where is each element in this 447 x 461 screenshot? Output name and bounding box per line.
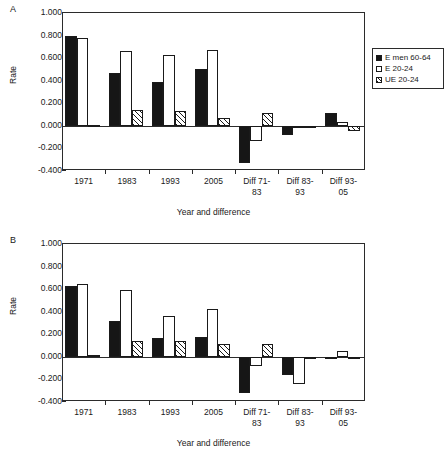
bar <box>250 357 262 366</box>
x-axis-title-b: Year and difference <box>62 438 365 448</box>
bar <box>65 286 77 357</box>
zero-baseline <box>63 126 364 127</box>
y-tick-label: 0.800 <box>18 261 62 271</box>
bar <box>293 357 305 384</box>
x-tick-mark <box>235 401 236 405</box>
y-tick-label: -0.200 <box>18 142 62 152</box>
plot-frame-a <box>62 12 365 170</box>
x-tick-mark <box>149 401 150 405</box>
x-tick-label: 1993 <box>147 176 193 187</box>
x-tick-mark <box>278 170 279 174</box>
y-tick-label: -0.400 <box>18 396 62 406</box>
bar <box>163 55 175 126</box>
bar <box>77 284 89 357</box>
x-axis-labels-a: 1971198319932005Diff 71- 83Diff 83- 93Di… <box>62 176 365 206</box>
bar <box>282 357 294 375</box>
x-tick-label: Diff 71- 83 <box>234 176 280 197</box>
bar <box>218 344 230 357</box>
bar <box>88 125 100 127</box>
bar <box>325 113 337 126</box>
y-tick-label: 0.200 <box>18 328 62 338</box>
bar <box>175 111 187 126</box>
x-axis-labels-b: 1971198319932005Diff 71- 83Diff 83- 93Di… <box>62 407 365 437</box>
x-tick-mark <box>322 170 323 174</box>
chart-panel-b: B Rate 1.0000.8000.6000.4000.2000.000-0.… <box>0 231 447 461</box>
y-tick-label: 1.000 <box>18 7 62 17</box>
plot-area-b <box>63 244 364 400</box>
y-tick-label: 0.400 <box>18 75 62 85</box>
x-tick-mark <box>278 401 279 405</box>
y-tick-label: 0.600 <box>18 52 62 62</box>
bar <box>239 126 251 164</box>
bar <box>250 126 262 141</box>
x-tick-label: 2005 <box>191 407 237 418</box>
bar <box>348 357 360 359</box>
y-tick-label: 0.800 <box>18 30 62 40</box>
x-tick-label: 1983 <box>104 407 150 418</box>
bar <box>207 50 219 126</box>
bar <box>88 355 100 357</box>
legend-swatch-icon <box>376 55 382 61</box>
legend-label: E men 60-64 <box>385 53 431 62</box>
y-tick-label: -0.400 <box>18 165 62 175</box>
bar <box>337 122 349 126</box>
bar <box>77 38 89 126</box>
bar <box>120 290 132 356</box>
bar <box>325 357 337 359</box>
bar <box>175 341 187 357</box>
bar <box>195 69 207 126</box>
bar <box>132 341 144 357</box>
x-tick-label: 1971 <box>61 407 107 418</box>
bar <box>163 316 175 357</box>
x-tick-mark <box>235 170 236 174</box>
y-tick-label: 0.200 <box>18 97 62 107</box>
x-tick-label: Diff 93- 05 <box>320 176 366 197</box>
bar <box>109 73 121 126</box>
bar <box>262 344 274 357</box>
x-tick-label: 1983 <box>104 176 150 187</box>
legend-label: UE 20-24 <box>385 75 419 84</box>
bar <box>262 113 274 126</box>
bar <box>109 321 121 357</box>
bar <box>207 309 219 356</box>
y-tick-label: 0.000 <box>18 351 62 361</box>
x-tick-label: Diff 93- 05 <box>320 407 366 428</box>
bar <box>65 36 77 126</box>
legend-swatch-icon <box>376 77 382 83</box>
bar <box>152 338 164 357</box>
bar <box>305 357 317 359</box>
bar <box>282 126 294 136</box>
bar <box>305 126 317 128</box>
x-tick-mark <box>192 401 193 405</box>
x-tick-label: 1993 <box>147 407 193 418</box>
legend-item: E men 60-64 <box>376 52 439 63</box>
bar <box>239 357 251 393</box>
x-tick-mark <box>322 401 323 405</box>
y-tick-label: 1.000 <box>18 238 62 248</box>
y-axis-b: 1.0000.8000.6000.4000.2000.000-0.200-0.4… <box>10 243 62 401</box>
y-tick-label: 0.400 <box>18 306 62 316</box>
x-tick-label: Diff 71- 83 <box>234 407 280 428</box>
legend-label: E 20-24 <box>385 64 413 73</box>
x-tick-mark <box>105 170 106 174</box>
chart-panel-a: A Rate 1.0000.8000.6000.4000.2000.000-0.… <box>0 0 447 230</box>
bar <box>218 118 230 126</box>
legend-swatch-icon <box>376 66 382 72</box>
bar <box>195 337 207 356</box>
plot-area-a <box>63 13 364 169</box>
y-tick-label: 0.600 <box>18 283 62 293</box>
x-axis-title-a: Year and difference <box>62 207 365 217</box>
zero-baseline <box>63 357 364 358</box>
bar <box>293 126 305 128</box>
y-axis-a: 1.0000.8000.6000.4000.2000.000-0.200-0.4… <box>10 12 62 170</box>
legend-item: E 20-24 <box>376 63 439 74</box>
bar <box>132 110 144 126</box>
bar <box>337 351 349 356</box>
x-tick-mark <box>149 170 150 174</box>
legend-a: E men 60-64E 20-24UE 20-24 <box>372 48 444 89</box>
x-tick-label: Diff 83- 93 <box>277 176 323 197</box>
x-tick-label: 2005 <box>191 176 237 187</box>
bar <box>348 126 360 131</box>
legend-item: UE 20-24 <box>376 74 439 85</box>
x-tick-label: 1971 <box>61 176 107 187</box>
